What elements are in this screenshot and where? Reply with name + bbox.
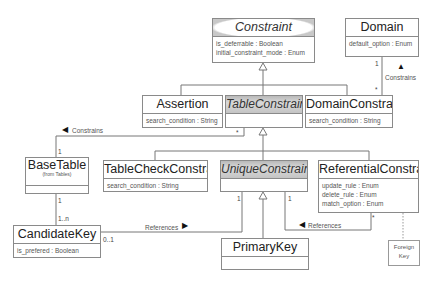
class-uniqueconstraint-name: UniqueConstraint — [221, 161, 307, 179]
multiplicity-uniqueconstraint: 1 — [237, 195, 241, 203]
attribute: initial_constraint_mode : Enum — [216, 48, 311, 57]
class-domain[interactable]: Domain default_option : Enum — [345, 18, 419, 57]
class-candidatekey-name: CandidateKey — [14, 226, 100, 244]
multiplicity-candidatekey: 1..n — [58, 215, 69, 223]
class-candidatekey-attributes: is_prefered : Boolean — [14, 244, 100, 257]
association-label-constrains: Constrains — [385, 74, 416, 82]
direction-arrow-left-icon: ◀ — [62, 126, 68, 134]
class-tablecheckconstraint[interactable]: TableCheckConstraint search_condition : … — [103, 160, 208, 192]
multiplicity-basetable: 1 — [58, 148, 62, 156]
attribute: search_condition : String — [146, 116, 219, 125]
class-domain-name: Domain — [346, 19, 418, 37]
association-label-constrains: Constrains — [72, 127, 103, 135]
multiplicity-basetable: 1 — [58, 197, 62, 205]
multiplicity-tableconstraint: * — [236, 129, 239, 137]
class-basetable[interactable]: BaseTable (from Tables) — [25, 157, 89, 194]
class-tableconstraint-name: TableConstraint — [226, 96, 302, 114]
attribute: update_rule : Enum — [322, 181, 415, 190]
attribute: search_condition : String — [309, 116, 389, 125]
class-tablecheckconstraint-attributes: search_condition : String — [104, 179, 207, 192]
attribute: delete_rule : Enum — [322, 190, 415, 199]
class-constraint-attributes: is_deferrable : Boolean initial_constrai… — [213, 37, 314, 59]
attribute: is_prefered : Boolean — [17, 246, 97, 255]
class-domain-attributes: default_option : Enum — [346, 37, 418, 50]
divider — [26, 185, 88, 186]
class-constraint-name: Constraint — [213, 19, 314, 37]
attribute: default_option : Enum — [349, 39, 415, 48]
class-constraint[interactable]: Constraint is_deferrable : Boolean initi… — [212, 18, 315, 63]
association-label-references: References — [308, 222, 341, 230]
direction-arrow-right-icon: ▶ — [182, 222, 188, 230]
class-referentialconstraint-name: ReferentialConstraint — [319, 161, 418, 179]
multiplicity-domain: 1 — [375, 60, 379, 68]
attribute: search_condition : String — [107, 181, 204, 190]
class-domainconstraint-name: DomainConstraint — [306, 96, 392, 114]
class-referentialconstraint[interactable]: ReferentialConstraint update_rule : Enum… — [318, 160, 419, 213]
note-line: Key — [389, 252, 419, 261]
direction-arrow-left-icon: ◀ — [299, 221, 305, 229]
multiplicity-uniqueconstraint: 1 — [288, 195, 292, 203]
note-line: Foreign — [389, 243, 419, 252]
direction-arrow-up-icon: ▲ — [397, 63, 405, 71]
class-primarykey[interactable]: PrimaryKey — [221, 238, 309, 270]
note-foreignkey[interactable]: Foreign Key — [388, 240, 420, 266]
class-candidatekey[interactable]: CandidateKey is_prefered : Boolean — [13, 225, 101, 258]
class-assertion-attributes: search_condition : String — [143, 114, 222, 127]
attribute: match_option : Enum — [322, 199, 415, 208]
class-assertion-name: Assertion — [143, 96, 222, 114]
class-assertion[interactable]: Assertion search_condition : String — [142, 95, 223, 128]
class-referentialconstraint-attributes: update_rule : Enum delete_rule : Enum ma… — [319, 179, 418, 210]
class-uniqueconstraint[interactable]: UniqueConstraint — [220, 160, 308, 192]
multiplicity-domainconstraint: * — [375, 86, 378, 94]
association-label-references: References — [145, 224, 178, 232]
multiplicity-candidatekey: 0..1 — [103, 236, 114, 244]
class-domainconstraint[interactable]: DomainConstraint search_condition : Stri… — [305, 95, 393, 128]
class-domainconstraint-attributes: search_condition : String — [306, 114, 392, 127]
class-tableconstraint[interactable]: TableConstraint — [225, 95, 303, 128]
class-primarykey-name: PrimaryKey — [222, 239, 308, 257]
class-tablecheckconstraint-name: TableCheckConstraint — [104, 161, 207, 179]
multiplicity-referentialconstraint: * — [372, 214, 375, 222]
attribute: is_deferrable : Boolean — [216, 39, 311, 48]
